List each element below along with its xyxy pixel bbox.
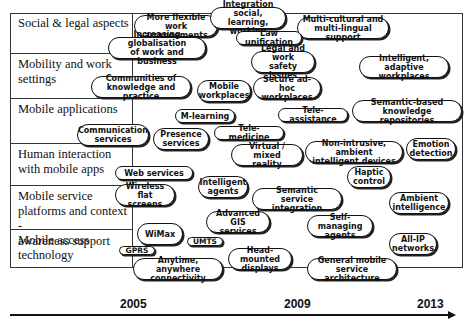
pill-m-learning: M-learning [175, 109, 235, 123]
year-2005: 2005 [120, 297, 147, 311]
pill-ambient-intelligence: Ambient intelligence [389, 192, 449, 214]
pill-intelligent-agents: Intelligent agents [198, 176, 248, 198]
pill-communities: Communities of knowledge and practice [91, 76, 191, 98]
pill-virtual-mixed: Virtual / mixed reality [231, 144, 303, 166]
pill-secure-adhoc: Secure ad-hoc workplaces [253, 77, 321, 99]
arrow-right-icon [448, 311, 456, 319]
pill-umts: UMTS [187, 237, 223, 246]
pill-self-managing: Self-managing agents [307, 215, 373, 237]
pill-tele-medicine: Tele-medicine [214, 126, 284, 140]
timeline-axis [10, 314, 450, 316]
pill-increasing-globalisation: Increasing globalisation of work and bus… [108, 37, 206, 59]
pill-semantic-repositories: Semantic-based knowledge repositories [352, 100, 462, 122]
pill-integration-social: Integration social, learning, working [210, 7, 286, 29]
row-access-technology: Mobile access technology [10, 230, 132, 268]
pill-head-mounted: Head-mounted displays [228, 248, 292, 270]
row-label: Social & legal aspects [18, 16, 129, 30]
pill-multicultural: Multi-cultural and multi-lingual support [297, 17, 389, 39]
row-label: Mobile applications [18, 102, 118, 116]
pill-wimax: WiMax [137, 223, 183, 245]
row-label: Mobile access technology [18, 233, 89, 262]
pill-haptic-control: Haptic control [347, 166, 391, 188]
pill-law-unification: Law unification [236, 31, 302, 45]
pill-web-services: Web services [115, 166, 193, 180]
year-2009: 2009 [284, 297, 311, 311]
pill-gprs: GPRS [119, 246, 155, 255]
row-label: Human interaction with mobile apps [18, 147, 111, 176]
pill-all-ip: All-IP networks [389, 233, 437, 255]
row-human-interaction: Human interaction with mobile apps [10, 144, 132, 186]
pill-presence-services: Presence services [153, 128, 209, 150]
pill-non-intrusive: Non-intrusive, ambient intelligent devic… [305, 141, 403, 163]
row-service-platforms: Mobile service platforms and context - a… [10, 186, 132, 230]
pill-intelligent-adaptive: Intelligent, adaptive workplaces [359, 56, 449, 78]
pill-semantic-integration: Semantic service integration [252, 188, 342, 210]
year-2013: 2013 [417, 297, 444, 311]
pill-tele-assistance: Tele-assistance [278, 108, 348, 122]
pill-mobile-workplaces: Mobile workplaces [197, 80, 251, 102]
pill-general-mobile: General mobile service architecture [307, 258, 397, 280]
pill-emotion-detection: Emotion detection [406, 138, 456, 160]
pill-legal-safety: Legal and work safety issues [251, 51, 315, 73]
pill-anytime-anywhere: Anytime, anywhere connectivity [133, 258, 223, 280]
pill-communication-services: Communication services [77, 124, 149, 146]
pill-wireless-flat-screens: Wireless flat screens [115, 184, 175, 206]
pill-advanced-gis: Advanced GIS services [206, 211, 270, 233]
